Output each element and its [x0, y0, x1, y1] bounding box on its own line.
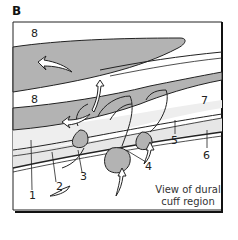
label-4: 4 — [145, 160, 152, 173]
label-6: 6 — [203, 149, 210, 162]
label-3: 3 — [80, 170, 87, 183]
caption-line-2: cuff region — [149, 196, 227, 208]
figure-caption: View of dural cuff region — [149, 184, 227, 208]
label-1: 1 — [29, 189, 36, 202]
label-8-middle: 8 — [31, 93, 38, 106]
caption-line-1: View of dural — [149, 184, 227, 196]
label-7: 7 — [201, 94, 208, 107]
label-2: 2 — [56, 180, 63, 193]
label-5: 5 — [171, 134, 178, 147]
label-8-top: 8 — [31, 27, 38, 40]
